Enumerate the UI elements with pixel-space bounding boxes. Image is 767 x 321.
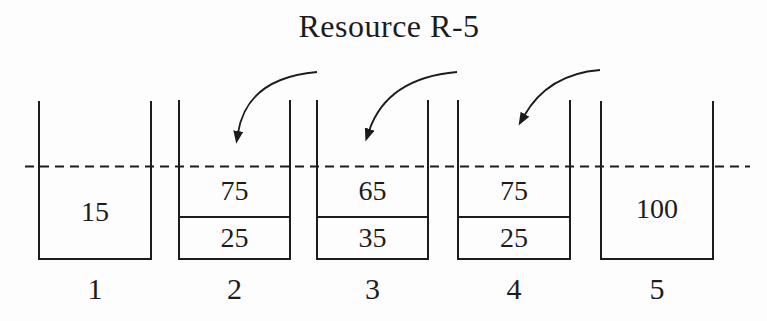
segment-value: 100 (602, 164, 712, 254)
segment-value: 35 (318, 218, 427, 258)
segment-value: 75 (459, 166, 569, 216)
container-4: 75 25 (457, 100, 571, 260)
container-label: 4 (457, 272, 571, 306)
container-1: 15 (38, 101, 152, 260)
container-label: 1 (38, 272, 152, 306)
segment-value: 25 (459, 218, 569, 258)
container-2: 75 25 (178, 100, 291, 260)
segment-value: 15 (40, 167, 150, 257)
diagram-title: Resource R-5 (298, 8, 479, 45)
container-label: 5 (600, 272, 714, 306)
container-5: 100 (600, 101, 714, 260)
resource-diagram: Resource R-5 15 75 25 65 35 75 25 100 1 … (0, 0, 767, 321)
segment-value: 75 (180, 166, 289, 216)
segment-value: 65 (318, 166, 427, 216)
container-3: 65 35 (316, 100, 429, 260)
container-label: 3 (316, 272, 429, 306)
container-label: 2 (178, 272, 291, 306)
segment-value: 25 (180, 218, 289, 258)
